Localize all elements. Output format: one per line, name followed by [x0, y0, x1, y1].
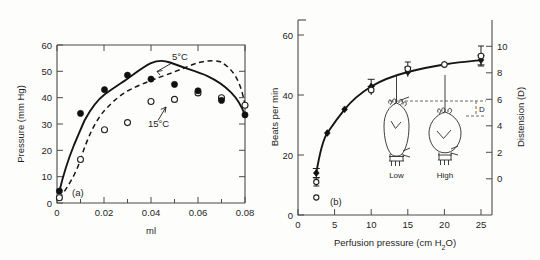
panel-b-xtick-0: 0: [295, 219, 300, 230]
panel-b-x-ticks: [298, 209, 481, 215]
inset-low-label: Low: [389, 171, 404, 180]
panel-b-ytick-3: 60: [282, 30, 293, 41]
panel-b-y2-axis-title: Distension (D): [515, 87, 526, 147]
panel-a-xtick-0: 0: [54, 207, 59, 218]
panel-b-y-tick-labels-left: 0 20 40 60: [282, 30, 293, 221]
panel-b-y-ticks-right: [486, 46, 492, 179]
panel-a-x-axis-title: ml: [146, 225, 156, 236]
panel-b-x-tick-labels: 0 5 10 15 20 25: [295, 219, 486, 230]
panel-b-y-tick-labels-right: 0 2 4 6 8 10: [497, 41, 508, 185]
panel-a-label: (a): [72, 187, 84, 198]
panel-a-xtick-4: 0.08: [236, 207, 255, 218]
data-point-group: [442, 62, 448, 68]
inset-distension-label: D: [479, 105, 485, 114]
leader-arrow-5c: [157, 71, 162, 76]
panel-a-xtick-2: 0.04: [142, 207, 161, 218]
inset-low-specimen: Low: [384, 75, 410, 180]
panel-b-y-axis-title: Beats per min: [270, 88, 280, 147]
panel-a-ytick-2: 20: [41, 145, 52, 156]
panel-a-plot: 0 0.02 0.04 0.06 0.08 0 10 20 30 40 50 6…: [0, 0, 270, 260]
panel-b: 0 5 10 15 20 25 0 20 40 60 0 2 4 6 8: [270, 0, 540, 260]
panel-a-x-tick-labels: 0 0.02 0.04 0.06 0.08: [54, 207, 254, 218]
panel-a-ytick-1: 10: [41, 171, 52, 182]
data-point-group: [313, 169, 320, 178]
figure-container: 0 0.02 0.04 0.06 0.08 0 10 20 30 40 50 6…: [0, 0, 540, 260]
data-point: [242, 102, 248, 108]
panel-a-y-axis-title: Pressure (mm Hg): [15, 85, 26, 163]
data-point: [56, 188, 62, 194]
panel-b-plot: 0 5 10 15 20 25 0 20 40 60 0 2 4 6 8: [270, 0, 540, 260]
data-points-15c: [56, 90, 248, 201]
data-point: [78, 157, 84, 163]
curve-label-5c: 5°C: [172, 51, 188, 62]
data-point-group: [313, 178, 319, 186]
panel-b-y2tick-2: 4: [497, 120, 502, 131]
data-point: [172, 96, 178, 102]
panel-a-ytick-4: 40: [41, 92, 52, 103]
panel-b-xtick-2: 10: [366, 219, 377, 230]
data-point: [125, 120, 131, 126]
data-points-5c: [56, 72, 248, 194]
inset-diagram: D Low: [384, 75, 486, 180]
panel-a-xtick-3: 0.06: [189, 207, 208, 218]
data-point: [171, 81, 177, 87]
panel-b-ytick-1: 20: [282, 150, 293, 161]
panel-b-y2tick-5: 10: [497, 41, 508, 52]
panel-b-axes: [298, 20, 492, 215]
data-point: [102, 127, 108, 133]
panel-b-ytick-2: 40: [282, 90, 293, 101]
panel-b-xtick-4: 20: [439, 219, 450, 230]
data-point: [124, 72, 130, 78]
panel-a-ytick-5: 50: [41, 66, 52, 77]
panel-b-xtick-1: 5: [332, 219, 337, 230]
panel-a-ytick-0: 0: [47, 198, 52, 209]
panel-b-x-axis-title: Perfusion pressure (cm H2O): [334, 237, 456, 251]
data-point: [314, 195, 319, 200]
panel-b-y2tick-4: 8: [497, 67, 502, 78]
panel-a-ytick-3: 30: [41, 119, 52, 130]
data-point: [148, 99, 154, 105]
panel-a-xtick-1: 0.02: [95, 207, 114, 218]
data-point-group: [478, 46, 484, 66]
panel-b-xtick-5: 25: [476, 219, 487, 230]
panel-b-y2tick-0: 0: [497, 173, 502, 184]
data-point: [195, 88, 201, 94]
panel-a-y-tick-labels: 0 10 20 30 40 50 60: [41, 40, 52, 209]
panel-b-label: (b): [330, 196, 342, 207]
panel-a: 0 0.02 0.04 0.06 0.08 0 10 20 30 40 50 6…: [0, 0, 270, 260]
panel-b-xtick-3: 15: [403, 219, 414, 230]
data-point: [56, 195, 62, 201]
panel-a-ytick-6: 60: [41, 40, 52, 51]
panel-b-y2tick-1: 2: [497, 147, 502, 158]
data-point: [77, 110, 83, 116]
panel-b-y2tick-3: 6: [497, 94, 502, 105]
inset-high-specimen: High: [429, 75, 461, 180]
leader-line-5c: [157, 64, 171, 72]
panel-b-ytick-0: 0: [288, 210, 293, 221]
data-point: [242, 112, 248, 118]
data-point: [148, 76, 154, 82]
panel-b-y-ticks-left: [298, 35, 304, 215]
data-point: [101, 87, 107, 93]
inset-high-label: High: [437, 171, 453, 180]
data-point: [218, 97, 224, 103]
